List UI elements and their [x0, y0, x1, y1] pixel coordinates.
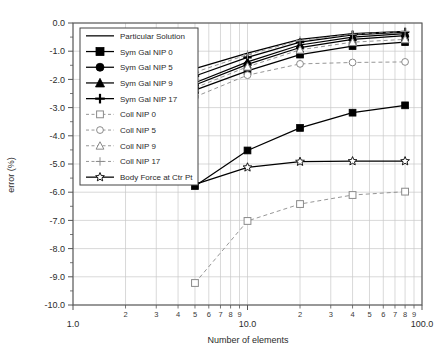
x-minor-tick-label: 6	[381, 310, 385, 319]
chart-background	[0, 0, 446, 354]
x-minor-tick-label: 5	[367, 310, 371, 319]
data-point-open-square	[244, 218, 251, 225]
data-point-filled-square	[402, 102, 409, 109]
data-point-open-square	[402, 188, 409, 195]
x-minor-tick-label: 4	[176, 310, 180, 319]
legend-label: Coll NIP 0	[120, 110, 156, 119]
x-minor-tick-label: 6	[207, 310, 211, 319]
x-axis-title: Number of elements	[207, 335, 289, 345]
error-vs-elements-line-chart: 0.0-1.0-2.0-3.0-4.0-5.0-6.0-7.0-8.0-9.0-…	[0, 0, 446, 354]
y-tick-label: -10.0	[44, 300, 65, 310]
x-minor-tick-label: 8	[229, 310, 233, 319]
legend-item[interactable]: Sym Gal NIP 0	[86, 48, 173, 57]
data-point-open-square	[97, 111, 104, 118]
data-point-filled-square	[349, 109, 356, 116]
data-point-filled-square	[244, 147, 251, 154]
data-point-open-circle	[97, 127, 104, 134]
data-point-open-square	[192, 280, 199, 287]
data-point-filled-square	[96, 48, 104, 56]
legend-item[interactable]: Sym Gal NIP 9	[86, 78, 173, 88]
y-tick-label: -7.0	[49, 216, 65, 226]
y-tick-label: -1.0	[49, 46, 65, 56]
data-point-open-circle	[297, 60, 304, 67]
y-tick-label: -5.0	[49, 159, 65, 169]
x-minor-tick-label: 3	[154, 310, 158, 319]
legend-label: Coll NIP 17	[120, 157, 161, 166]
legend-label: Sym Gal NIP 9	[120, 79, 173, 88]
data-point-open-square	[297, 201, 304, 208]
legend-label: Coll NIP 9	[120, 142, 156, 151]
data-point-filled-circle	[96, 63, 104, 71]
x-minor-tick-label: 7	[218, 310, 222, 319]
legend-item[interactable]: Sym Gal NIP 5	[86, 63, 173, 72]
legend-label: Sym Gal NIP 5	[120, 63, 173, 72]
x-minor-tick-label: 9	[237, 310, 241, 319]
legend-label: Particular Solution	[120, 32, 185, 41]
data-point-open-circle	[349, 59, 356, 66]
x-minor-tick-label: 9	[412, 310, 416, 319]
y-tick-label: -8.0	[49, 244, 65, 254]
legend-label: Body Force at Ctr Pt	[120, 173, 193, 182]
x-minor-tick-label: 2	[123, 310, 127, 319]
y-axis-title: error (%)	[6, 157, 16, 193]
x-minor-tick-label: 7	[393, 310, 397, 319]
chart-legend: Particular SolutionSym Gal NIP 0Sym Gal …	[80, 28, 198, 185]
legend-item[interactable]: Sym Gal NIP 17	[86, 94, 178, 104]
data-point-open-square	[349, 192, 356, 199]
x-minor-tick-label: 3	[329, 310, 333, 319]
y-tick-label: -3.0	[49, 103, 65, 113]
y-tick-label: -9.0	[49, 272, 65, 282]
y-tick-label: -2.0	[49, 75, 65, 85]
data-point-filled-square	[297, 125, 304, 132]
chart-container: 0.0-1.0-2.0-3.0-4.0-5.0-6.0-7.0-8.0-9.0-…	[0, 0, 446, 354]
x-tick-label: 100.0	[411, 319, 434, 329]
x-minor-tick-label: 5	[193, 310, 197, 319]
y-tick-label: 0.0	[52, 18, 65, 28]
x-tick-label: 1.0	[67, 319, 80, 329]
data-point-open-circle	[402, 59, 409, 66]
x-tick-label: 10.0	[239, 319, 257, 329]
legend-item[interactable]: Coll NIP 0	[86, 110, 156, 119]
data-point-open-circle	[244, 72, 251, 79]
y-tick-label: -6.0	[49, 187, 65, 197]
legend-label: Coll NIP 5	[120, 126, 156, 135]
x-minor-tick-label: 8	[403, 310, 407, 319]
y-tick-label: -4.0	[49, 131, 65, 141]
x-minor-tick-label: 4	[350, 310, 354, 319]
legend-label: Sym Gal NIP 0	[120, 48, 173, 57]
legend-label: Sym Gal NIP 17	[120, 95, 178, 104]
x-minor-tick-label: 2	[298, 310, 302, 319]
